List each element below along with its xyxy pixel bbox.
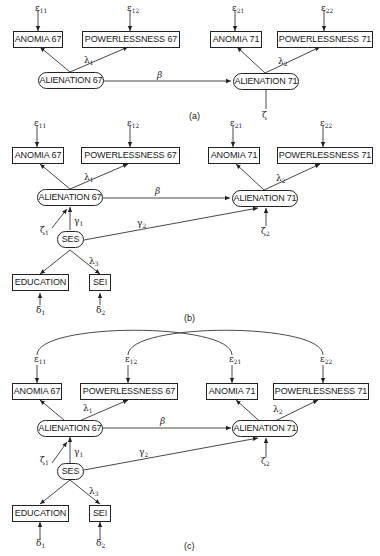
label-epsilon-12: ε12	[127, 3, 139, 16]
label-epsilon-11: ε11	[34, 354, 46, 367]
label-epsilon-11: ε11	[35, 3, 47, 16]
label-beta: β	[160, 416, 165, 426]
label-zeta-1: ζ1	[40, 225, 49, 238]
label-zeta-2: ζ2	[261, 226, 270, 239]
label-gamma-1: γ1	[74, 447, 83, 460]
node-powerlessness-71: POWERLESSNESS 71	[277, 31, 373, 48]
label-epsilon-22: ε22	[320, 118, 332, 131]
label-lambda-1: λ1	[84, 55, 94, 68]
caption-a: (a)	[189, 111, 200, 121]
label-epsilon-12: ε12	[125, 354, 137, 367]
latent-alienation-71: ALIENATION 71	[233, 73, 299, 90]
label-gamma-1: γ1	[74, 216, 83, 229]
latent-alienation-71: ALIENATION 71	[232, 420, 298, 437]
latent-ses: SES	[57, 231, 84, 248]
label-zeta: ζ	[262, 110, 267, 120]
label-delta-1: δ1	[36, 538, 45, 551]
node-anomia-67: ANOMIA 67	[13, 31, 63, 48]
latent-ses: SES	[57, 463, 84, 480]
latent-alienation-67: ALIENATION 67	[38, 72, 104, 89]
node-powerlessness-67: POWERLESSNESS 67	[80, 383, 178, 400]
label-epsilon-21: ε21	[230, 118, 242, 131]
label-epsilon-11: ε11	[34, 118, 46, 131]
latent-alienation-71: ALIENATION 71	[232, 190, 298, 207]
node-sei: SEI	[89, 505, 111, 522]
label-gamma-2: γ2	[139, 447, 148, 460]
label-lambda-1: λ1	[83, 403, 93, 416]
node-powerlessness-67: POWERLESSNESS 67	[82, 31, 180, 48]
label-delta-1: δ1	[36, 305, 45, 318]
label-beta: β	[157, 70, 162, 80]
label-zeta-1: ζ1	[40, 455, 49, 468]
label-epsilon-12: ε12	[127, 118, 139, 131]
node-anomia-71: ANOMIA 71	[208, 147, 260, 164]
node-anomia-67: ANOMIA 67	[12, 383, 62, 400]
node-anomia-71: ANOMIA 71	[210, 31, 262, 48]
caption-b: (b)	[184, 313, 195, 323]
label-lambda-2: λ2	[273, 404, 283, 417]
label-lambda-3: λ3	[89, 256, 99, 269]
label-delta-2: δ2	[96, 305, 105, 318]
node-sei: SEI	[89, 274, 111, 291]
node-anomia-71: ANOMIA 71	[206, 383, 258, 400]
label-lambda-2: λ2	[276, 173, 286, 186]
label-gamma-2: γ2	[137, 218, 146, 231]
latent-alienation-67: ALIENATION 67	[37, 189, 103, 206]
caption-c: (c)	[184, 541, 195, 551]
label-zeta-2: ζ2	[261, 456, 270, 469]
node-powerlessness-71: POWERLESSNESS 71	[273, 383, 369, 400]
label-epsilon-21: ε21	[232, 3, 244, 16]
node-powerlessness-71: POWERLESSNESS 71	[277, 147, 373, 164]
label-epsilon-21: ε21	[229, 354, 241, 367]
label-lambda-3: λ3	[89, 486, 99, 499]
label-delta-2: δ2	[96, 538, 105, 551]
node-education: EDUCATION	[12, 505, 69, 522]
latent-alienation-67: ALIENATION 67	[37, 420, 103, 437]
node-anomia-67: ANOMIA 67	[12, 147, 64, 164]
label-lambda-1: λ1	[84, 172, 94, 185]
label-epsilon-22: ε22	[320, 354, 332, 367]
label-beta: β	[155, 186, 160, 196]
node-education: EDUCATION	[12, 274, 69, 291]
label-lambda-2: λ2	[278, 56, 288, 69]
node-powerlessness-67: POWERLESSNESS 67	[81, 147, 180, 164]
label-epsilon-22: ε22	[321, 3, 333, 16]
